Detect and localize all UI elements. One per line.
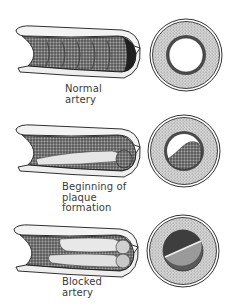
label-line: Blocked <box>62 277 102 288</box>
stage-blocked-artery: Blocked artery <box>0 0 236 307</box>
label-blocked-artery: Blocked artery <box>62 277 102 298</box>
blocked-artery-cross-section <box>145 213 221 289</box>
blocked-artery-tube-illustration <box>10 221 140 279</box>
label-line: artery <box>62 288 102 299</box>
